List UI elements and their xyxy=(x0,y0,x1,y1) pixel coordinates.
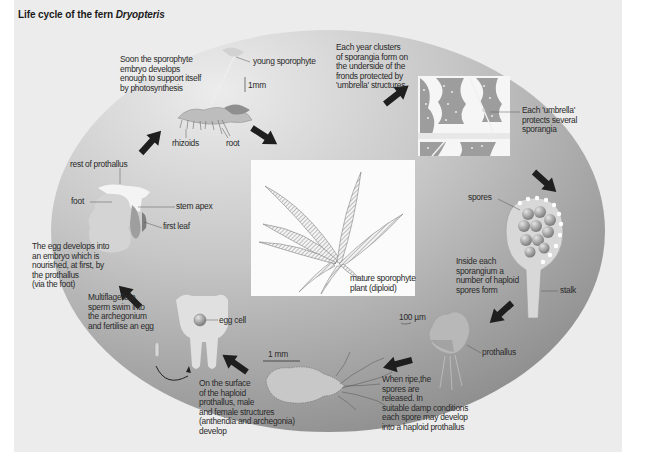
label-scale-100um: 100 µm xyxy=(399,313,426,323)
label-rhizoids: rhizoids xyxy=(172,139,199,149)
title-prefix: Life cycle of the fern xyxy=(18,9,116,20)
label-spores: spores xyxy=(468,193,492,203)
label-umbrella: Each 'umbrella' protects several sporang… xyxy=(522,106,577,135)
label-stem-apex: stem apex xyxy=(176,202,212,212)
label-young-sporophyte: young sporophyte xyxy=(253,57,316,67)
egg-cell-icon xyxy=(194,314,206,326)
diagram-title: Life cycle of the fern Dryopteris xyxy=(18,9,165,20)
label-scale-1mm-bottom: 1 mm xyxy=(268,350,288,360)
label-mature-sporophyte: mature sporophyte plant (diploid) xyxy=(350,274,416,293)
label-scale-1mm-top: 1mm xyxy=(248,81,266,91)
label-foot: foot xyxy=(71,197,84,207)
frond-underside-inset xyxy=(418,76,520,156)
label-sperm-swim: Multiflagellate sperm swim into the arch… xyxy=(88,293,154,331)
label-spores-released: When ripe,the spores are released. In su… xyxy=(382,375,468,433)
label-first-leaf: first leaf xyxy=(163,222,190,232)
label-haploid-surface: On the surface of the haploid prothallus… xyxy=(199,379,295,437)
title-species: Dryopteris xyxy=(116,9,165,20)
label-sporangia-clusters: Each year clusters of sporangia form on … xyxy=(336,43,408,91)
label-sporophyte-support: Soon the sporophyte embryo develops enou… xyxy=(120,55,201,93)
label-rest-of-prothallus: rest of prothallus xyxy=(70,160,127,170)
label-root: root xyxy=(226,139,239,149)
label-prothallus: prothallus xyxy=(482,348,516,358)
label-stalk: stalk xyxy=(560,286,576,296)
label-egg-cell: egg cell xyxy=(219,316,246,326)
label-egg-develops: The egg develops into an embryo which is… xyxy=(32,242,109,290)
label-inside-sporangium: Inside each sporangium a number of haplo… xyxy=(456,257,519,295)
diagram-canvas: Life cycle of the fern Dryopteris Soon t… xyxy=(0,0,654,464)
